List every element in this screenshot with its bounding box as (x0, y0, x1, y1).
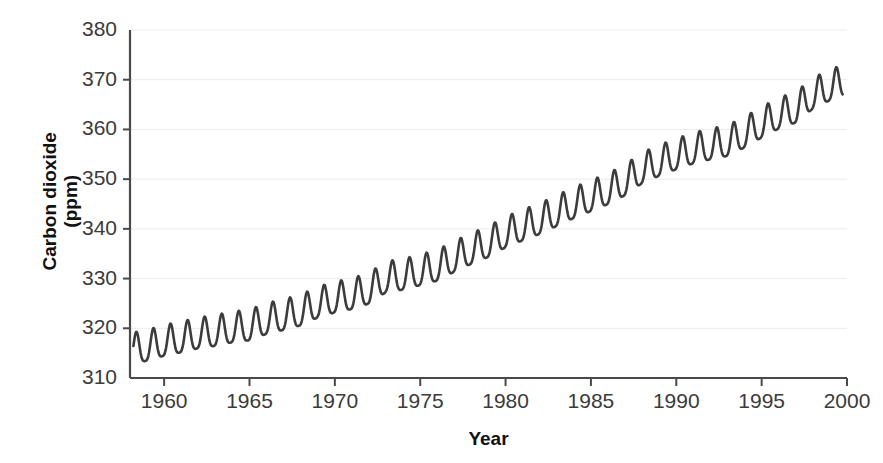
x-tick-label: 1970 (290, 389, 380, 413)
y-axis-title-line2: (ppm) (60, 175, 81, 228)
x-tick-label: 2000 (802, 389, 883, 413)
x-tick-label: 1995 (717, 389, 807, 413)
y-tick-label: 380 (55, 17, 117, 41)
y-tick-label: 310 (55, 365, 117, 389)
axis-lines-group (130, 30, 847, 378)
x-tick-marks-group (164, 378, 847, 386)
x-tick-label: 1980 (461, 389, 551, 413)
y-axis-title-line1: Carbon dioxide (39, 132, 60, 270)
co2-data-line (133, 67, 842, 361)
co2-chart: 310320330340350360370380 196019651970197… (0, 0, 883, 463)
x-tick-label: 1965 (205, 389, 295, 413)
x-tick-label: 1985 (546, 389, 636, 413)
x-tick-label: 1975 (375, 389, 465, 413)
x-axis-title: Year (389, 428, 589, 450)
x-tick-label: 1960 (119, 389, 209, 413)
y-axis-title: Carbon dioxide (ppm) (39, 51, 82, 351)
x-tick-label: 1990 (631, 389, 721, 413)
gridlines-group (130, 30, 847, 328)
